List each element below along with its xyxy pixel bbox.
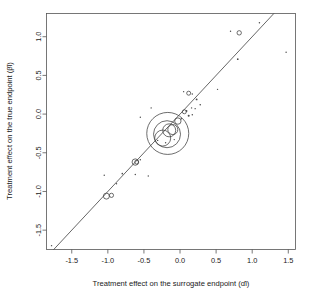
scatter-plot-figure: -1.5-1.0-0.50.00.51.01.5 -1.5-1.0-0.50.0… <box>0 0 319 296</box>
reference-line <box>54 14 274 250</box>
x-tick-label: -1.0 <box>101 256 114 265</box>
y-axis-ticks: -1.5-1.0-0.50.00.51.0 <box>34 32 46 237</box>
x-tick-label: -0.5 <box>138 256 151 265</box>
data-point-marker <box>140 159 141 160</box>
data-point-bubble <box>154 121 181 148</box>
data-point-bubble <box>109 193 113 197</box>
data-point-marker <box>230 31 231 32</box>
x-axis-ticks: -1.5-1.0-0.50.00.51.01.5 <box>65 250 293 265</box>
data-points-group <box>51 22 287 246</box>
data-point-marker <box>157 140 158 141</box>
data-point-marker <box>186 110 188 112</box>
data-point-marker <box>181 118 182 119</box>
data-point-bubble <box>168 125 178 135</box>
x-tick-label: 0.5 <box>211 256 221 265</box>
plot-canvas: -1.5-1.0-0.50.00.51.01.5 -1.5-1.0-0.50.0… <box>0 0 319 296</box>
y-axis-title: Treatment effect on the true endpoint (β… <box>5 62 14 200</box>
data-point-marker <box>199 104 201 106</box>
x-axis-title: Treatment effect on the surrogate endpoi… <box>93 279 250 288</box>
data-point-marker <box>150 107 151 108</box>
data-point-marker <box>140 116 141 117</box>
x-tick-label: 1.0 <box>247 256 257 265</box>
y-tick-label: 0.5 <box>34 70 43 80</box>
data-point-marker <box>217 89 218 90</box>
data-point-marker <box>192 93 193 94</box>
data-point-marker <box>165 142 166 143</box>
data-point-marker <box>104 175 105 176</box>
data-point-marker <box>192 114 193 115</box>
data-point-bubble <box>237 31 241 35</box>
data-point-marker <box>194 108 195 109</box>
data-point-bubble <box>175 118 181 124</box>
data-point-marker <box>285 51 286 52</box>
y-tick-label: -0.5 <box>34 146 43 159</box>
data-point-marker <box>135 174 136 175</box>
y-tick-label: 0.0 <box>34 109 43 119</box>
data-point-marker <box>148 175 149 176</box>
data-point-bubble <box>187 91 191 95</box>
data-point-marker <box>188 115 190 117</box>
x-tick-label: 1.5 <box>283 256 293 265</box>
x-tick-label: -1.5 <box>65 256 78 265</box>
y-tick-label: 1.0 <box>34 32 43 42</box>
data-point-marker <box>237 58 239 60</box>
y-tick-label: -1.0 <box>34 185 43 198</box>
identity-reference-line <box>54 14 274 250</box>
y-tick-label: -1.5 <box>34 224 43 237</box>
data-point-marker <box>121 173 123 175</box>
data-point-marker <box>174 139 175 140</box>
x-tick-label: 0.0 <box>175 256 185 265</box>
data-point-marker <box>116 183 117 184</box>
data-point-bubble <box>147 112 189 154</box>
data-point-marker <box>191 107 192 108</box>
data-point-marker <box>259 22 260 23</box>
data-point-bubble <box>103 193 109 199</box>
data-point-bubble <box>182 110 186 114</box>
plot-frame <box>47 14 296 250</box>
data-point-marker <box>183 91 184 92</box>
data-point-marker <box>196 98 198 100</box>
data-point-marker <box>51 245 52 246</box>
